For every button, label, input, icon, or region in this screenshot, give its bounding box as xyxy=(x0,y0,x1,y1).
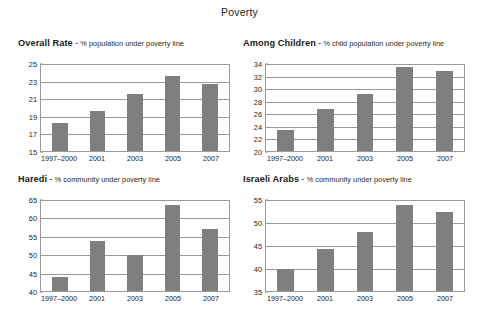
y-tick-label: 45 xyxy=(29,269,37,278)
y-tick-label: 34 xyxy=(254,60,262,69)
plot-area-overall-rate: 151719212325 1997–20002001200320052007 xyxy=(18,50,230,172)
x-tick-label: 1997–2000 xyxy=(41,294,77,303)
x-tick-label: 2005 xyxy=(397,154,413,163)
y-tick-label: 50 xyxy=(254,219,262,228)
chart-panel-among-children: Among Children - % child population unde… xyxy=(243,38,465,160)
x-tick-label: 2003 xyxy=(357,154,373,163)
bar xyxy=(277,269,294,292)
chart-title-name: Haredi xyxy=(18,174,47,184)
bar-series-haredi xyxy=(41,201,229,291)
y-tick-label: 19 xyxy=(29,112,37,121)
plot-area-among-children: 2022242628303234 1997–200020012003200520… xyxy=(243,50,465,172)
chart-panel-israeli-arabs: Israeli Arabs - % community under povert… xyxy=(243,174,465,300)
plot-frame-haredi xyxy=(40,200,230,292)
figure-title: Poverty xyxy=(0,6,479,18)
bar xyxy=(277,130,294,152)
plot-area-israeli-arabs: 3540455055 1997–20002001200320052007 xyxy=(243,186,465,312)
bar xyxy=(357,232,374,291)
chart-title-description: % child population under poverty line xyxy=(323,39,444,48)
y-tick-label: 26 xyxy=(254,110,262,119)
y-tick-label: 35 xyxy=(254,288,262,297)
x-tick-label: 2007 xyxy=(203,294,219,303)
bar xyxy=(165,205,181,291)
x-tick-label: 2005 xyxy=(165,154,181,163)
x-tick-label: 2001 xyxy=(317,294,333,303)
x-tick-label: 1997–2000 xyxy=(267,294,303,303)
y-axis-haredi: 404550556065 xyxy=(18,200,40,292)
y-tick-label: 55 xyxy=(254,196,262,205)
x-tick-label: 1997–2000 xyxy=(267,154,303,163)
y-tick-label: 25 xyxy=(29,60,37,69)
x-tick-label: 2003 xyxy=(127,294,143,303)
bar xyxy=(90,241,106,291)
chart-title-dash: - xyxy=(302,175,305,184)
chart-title-israeli-arabs: Israeli Arabs - % community under povert… xyxy=(243,174,465,186)
bar xyxy=(127,255,143,291)
chart-title-among-children: Among Children - % child population unde… xyxy=(243,38,465,50)
bar xyxy=(317,249,334,291)
y-axis-among-children: 2022242628303234 xyxy=(243,64,265,152)
x-tick-label: 2007 xyxy=(437,154,453,163)
y-tick-label: 24 xyxy=(254,122,262,131)
y-tick-label: 22 xyxy=(254,135,262,144)
chart-panel-haredi: Haredi - % community under poverty line … xyxy=(18,174,230,300)
x-tick-label: 2001 xyxy=(89,154,105,163)
bar xyxy=(436,212,453,291)
x-tick-label: 2001 xyxy=(317,154,333,163)
y-tick-label: 21 xyxy=(29,95,37,104)
chart-title-description: % community under poverty line xyxy=(55,175,160,184)
bar xyxy=(52,277,68,291)
y-tick-label: 65 xyxy=(29,196,37,205)
y-tick-label: 40 xyxy=(29,288,37,297)
x-tick-label: 2005 xyxy=(165,294,181,303)
bar xyxy=(202,229,218,291)
y-tick-label: 60 xyxy=(29,214,37,223)
y-tick-label: 28 xyxy=(254,97,262,106)
chart-title-dash: - xyxy=(318,39,321,48)
bar xyxy=(52,123,68,151)
bar xyxy=(202,84,218,151)
bar xyxy=(317,109,334,151)
y-tick-label: 40 xyxy=(254,265,262,274)
y-axis-israeli-arabs: 3540455055 xyxy=(243,200,265,292)
x-tick-label: 2003 xyxy=(127,154,143,163)
y-tick-label: 55 xyxy=(29,232,37,241)
chart-panel-overall-rate: Overall Rate - % population under povert… xyxy=(18,38,230,160)
chart-title-dash: - xyxy=(50,175,53,184)
y-tick-label: 45 xyxy=(254,242,262,251)
chart-title-haredi: Haredi - % community under poverty line xyxy=(18,174,230,186)
bar-series-israeli-arabs xyxy=(266,201,464,291)
bar xyxy=(396,205,413,291)
bar xyxy=(165,76,181,151)
plot-frame-among-children xyxy=(265,64,465,152)
chart-title-dash: - xyxy=(75,39,78,48)
bar-series-among-children xyxy=(266,65,464,151)
chart-title-description: % community under poverty line xyxy=(307,175,412,184)
bar xyxy=(90,111,106,151)
y-tick-label: 30 xyxy=(254,85,262,94)
chart-title-name: Among Children xyxy=(243,38,316,48)
bar xyxy=(396,67,413,151)
plot-frame-israeli-arabs xyxy=(265,200,465,292)
x-tick-label: 2003 xyxy=(357,294,373,303)
x-tick-label: 2007 xyxy=(203,154,219,163)
x-tick-label: 1997–2000 xyxy=(41,154,77,163)
chart-title-name: Overall Rate xyxy=(18,38,73,48)
y-tick-label: 32 xyxy=(254,72,262,81)
y-tick-label: 17 xyxy=(29,130,37,139)
y-tick-label: 50 xyxy=(29,251,37,260)
chart-title-name: Israeli Arabs xyxy=(243,174,299,184)
plot-area-haredi: 404550556065 1997–20002001200320052007 xyxy=(18,186,230,312)
bar xyxy=(436,71,453,151)
x-tick-label: 2007 xyxy=(437,294,453,303)
y-tick-label: 20 xyxy=(254,148,262,157)
chart-title-description: % population under poverty line xyxy=(80,39,184,48)
y-tick-label: 23 xyxy=(29,77,37,86)
y-axis-overall-rate: 151719212325 xyxy=(18,64,40,152)
x-tick-label: 2001 xyxy=(89,294,105,303)
chart-title-overall-rate: Overall Rate - % population under povert… xyxy=(18,38,230,50)
poverty-figure: Poverty Overall Rate - % population unde… xyxy=(0,0,479,316)
y-tick-label: 15 xyxy=(29,148,37,157)
bar-series-overall-rate xyxy=(41,65,229,151)
bar xyxy=(127,94,143,151)
